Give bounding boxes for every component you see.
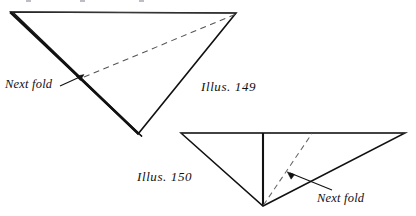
- illus-150-drawing: [181, 133, 405, 206]
- next-fold-label-illus-150: Next fold: [317, 192, 364, 205]
- folding-diagram-svg: [0, 0, 416, 216]
- illus-149-drawing: [11, 12, 236, 137]
- illus-149-triangle-outline: [11, 12, 236, 134]
- figure-container: Next fold Illus. 149 Illus. 150 Next fol…: [0, 0, 416, 216]
- illus-150-triangle-outline: [181, 133, 405, 206]
- illus-149-caption: Illus. 149: [201, 80, 256, 93]
- illus-149-fold-layer-tip: [140, 134, 143, 136]
- illus-150-caption: Illus. 150: [137, 170, 192, 183]
- next-fold-label-illus-149: Next fold: [5, 78, 52, 91]
